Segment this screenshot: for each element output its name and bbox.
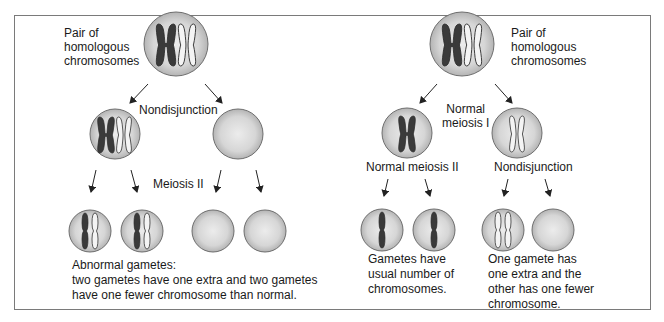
- right-mid-cell-light-homolog: [492, 108, 542, 158]
- arrow-icon: [420, 84, 437, 103]
- right-result-normal-label: Gametes have usual number of chromosomes…: [368, 252, 454, 297]
- normal-meiosis-ii-label: Normal meiosis II: [366, 160, 459, 174]
- left-mid-cell-with-both-homologs: [90, 109, 140, 159]
- right-gamete-missing: [532, 209, 574, 251]
- arrow-icon: [130, 84, 148, 103]
- normal-meiosis-i-label: Normal meiosis I: [442, 102, 489, 130]
- arrow-icon: [504, 179, 508, 196]
- arrow-icon: [131, 170, 137, 192]
- left-gamete-missing-1: [192, 210, 234, 252]
- arrow-icon: [256, 170, 261, 192]
- arrow-icon: [495, 84, 512, 103]
- right-gamete-extra: [482, 209, 524, 251]
- meiosis-ii-label: Meiosis II: [153, 177, 204, 191]
- right-gamete-normal-2: [413, 209, 455, 251]
- nondisjunction-label: Nondisjunction: [139, 103, 218, 117]
- left-title-label: Pair of homologous chromosomes: [64, 26, 139, 68]
- right-mid-cell-dark-homolog: [382, 108, 432, 158]
- left-gamete-extra-1: [69, 210, 111, 252]
- left-mid-cell-empty: [213, 109, 263, 159]
- arrow-icon: [216, 170, 221, 192]
- left-gamete-extra-2: [121, 210, 163, 252]
- right-nondisjunction-label: Nondisjunction: [494, 160, 573, 174]
- arrow-icon: [545, 179, 550, 196]
- right-title-label: Pair of homologous chromosomes: [511, 26, 586, 68]
- left-gamete-missing-2: [244, 210, 286, 252]
- arrow-icon: [384, 179, 388, 196]
- right-gamete-normal-1: [361, 209, 403, 251]
- right-parent-cell: [430, 12, 494, 76]
- arrow-icon: [91, 170, 96, 192]
- left-parent-cell: [144, 12, 208, 76]
- left-result-label: Abnormal gametes: two gametes have one e…: [72, 258, 317, 303]
- right-result-abnormal-label: One gamete has one extra and the other h…: [488, 252, 594, 312]
- arrow-icon: [425, 179, 430, 196]
- arrow-icon: [205, 84, 222, 103]
